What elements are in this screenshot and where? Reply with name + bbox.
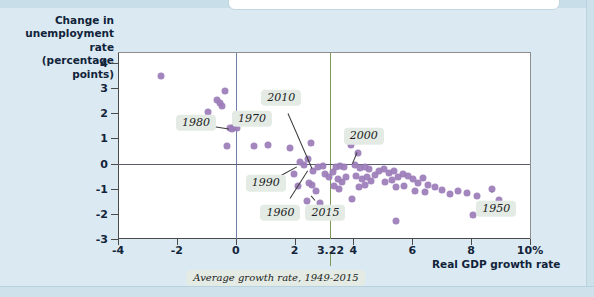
- y-tick-label: -1: [96, 182, 108, 195]
- data-point: [250, 143, 257, 150]
- data-point: [157, 72, 164, 79]
- data-point: [420, 175, 427, 182]
- zero-growth-line: [236, 53, 237, 239]
- y-tick: [111, 239, 118, 240]
- data-point: [412, 187, 419, 194]
- data-point: [362, 181, 369, 188]
- y-tick-label: 1: [100, 132, 108, 145]
- x-tick-label: 6: [408, 244, 416, 257]
- top-white-card: [228, 0, 560, 10]
- x-axis-title: Real GDP growth rate: [432, 258, 560, 270]
- data-point: [348, 196, 355, 203]
- y-tick: [111, 164, 118, 165]
- page-edge-bottom: [0, 286, 594, 297]
- data-point: [438, 186, 445, 193]
- data-point: [319, 163, 326, 170]
- x-tick-label: -2: [171, 244, 183, 257]
- data-point: [312, 188, 319, 195]
- average-line-stub: [330, 254, 331, 266]
- x-tick-label: 8: [467, 244, 475, 257]
- plot-inner: 43210-1-2-3-4-2023.2246810% 198019702010…: [118, 53, 530, 239]
- y-tick: [111, 88, 118, 89]
- data-point: [290, 171, 297, 178]
- y-tick-label: 2: [100, 107, 108, 120]
- y-axis-title: Change in unemployment rate (percentage …: [18, 14, 114, 81]
- x-tick-label: -4: [112, 244, 124, 257]
- data-point: [469, 212, 476, 219]
- data-point: [343, 174, 350, 181]
- y-tick-label: 0: [100, 157, 108, 170]
- data-point: [300, 161, 307, 168]
- data-point: [287, 144, 294, 151]
- year-label-2000: 2000: [344, 128, 384, 145]
- year-label-1950: 1950: [476, 201, 516, 218]
- y-tick: [111, 113, 118, 114]
- plot-area: 43210-1-2-3-4-2023.2246810% 198019702010…: [118, 52, 531, 239]
- leader-line-2015: [310, 195, 315, 200]
- data-point: [303, 197, 310, 204]
- data-point: [393, 184, 400, 191]
- year-label-1960: 1960: [260, 204, 300, 221]
- y-tick-label: 4: [100, 57, 108, 70]
- data-point: [401, 182, 408, 189]
- y-tick-label: -2: [96, 207, 108, 220]
- x-tick-label: 4: [350, 244, 358, 257]
- year-label-1970: 1970: [232, 111, 272, 128]
- data-point: [421, 188, 428, 195]
- y-tick: [111, 63, 118, 64]
- year-label-2015: 2015: [305, 204, 345, 221]
- x-tick-label: 2: [291, 244, 299, 257]
- y-tick-label: 3: [100, 82, 108, 95]
- data-point: [223, 143, 230, 150]
- data-point: [446, 191, 453, 198]
- average-growth-note: Average growth rate, 1949-2015: [186, 270, 365, 286]
- page-edge-right: [586, 0, 594, 297]
- y-tick: [111, 138, 118, 139]
- year-label-1990: 1990: [246, 175, 286, 192]
- data-point: [218, 103, 225, 110]
- data-point: [265, 142, 272, 149]
- data-point: [222, 88, 229, 95]
- data-point: [463, 190, 470, 197]
- data-point: [474, 192, 481, 199]
- year-label-1980: 1980: [176, 115, 216, 132]
- x-tick-label: 0: [232, 244, 240, 257]
- data-point: [336, 186, 343, 193]
- figure-root: Change in unemployment rate (percentage …: [0, 0, 594, 297]
- x-axis-line: [118, 238, 530, 239]
- y-tick: [111, 214, 118, 215]
- year-label-2010: 2010: [261, 89, 301, 106]
- x-tick-label: 10%: [517, 244, 543, 257]
- y-axis-line: [118, 53, 119, 239]
- data-point: [307, 139, 314, 146]
- y-tick: [111, 189, 118, 190]
- data-point: [341, 164, 348, 171]
- data-point: [454, 188, 461, 195]
- data-point: [393, 217, 400, 224]
- y-tick-label: -3: [96, 233, 108, 246]
